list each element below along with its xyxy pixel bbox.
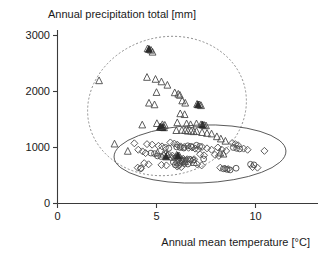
scatter-plot-figure: Annual precipitation total [mm] Annual m… [0,0,323,254]
y-axis-title: Annual precipitation total [mm] [48,8,196,20]
x-tick-label-5: 5 [153,210,159,222]
y-tick-label-1000: 1000 [26,141,50,153]
x-tick-label-0: 0 [54,210,60,222]
y-tick-label-2000: 2000 [26,85,50,97]
y-tick-label-3000: 3000 [26,29,50,41]
x-axis-title: Annual mean temperature [°C] [161,236,310,248]
y-tick-label-0: 0 [44,197,50,209]
x-tick-label-10: 10 [249,210,261,222]
